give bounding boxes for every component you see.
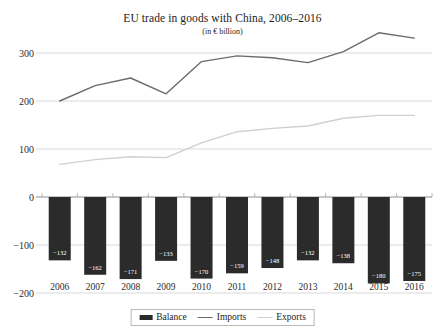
legend-label-balance: Balance [156, 312, 187, 322]
x-axis-tick-label: 2016 [394, 282, 434, 292]
y-axis-tick-label: 200 [0, 96, 34, 107]
y-axis-tick-label: 300 [0, 48, 34, 59]
legend-item-imports[interactable]: Imports [198, 312, 247, 322]
bar-value-label: −175 [401, 270, 427, 277]
legend-swatch-imports-icon [198, 317, 213, 318]
x-axis-tick-label: 2014 [323, 282, 363, 292]
bar-value-label: −171 [118, 268, 144, 275]
bar-value-label: −170 [189, 268, 215, 275]
legend-label-exports: Exports [276, 312, 306, 322]
legend-swatch-balance-icon [139, 315, 152, 320]
legend-swatch-exports-icon [257, 317, 272, 318]
y-axis-tick-label: −200 [0, 288, 34, 299]
bar-value-label: −148 [259, 257, 285, 264]
x-axis-tick-label: 2012 [252, 282, 292, 292]
chart-legend: Balance Imports Exports [130, 309, 315, 326]
x-axis-tick-label: 2008 [111, 282, 151, 292]
x-axis-tick-label: 2013 [288, 282, 328, 292]
y-axis-tick-label: −100 [0, 240, 34, 251]
bar-value-label: −132 [47, 249, 73, 256]
bar-value-label: −132 [295, 249, 321, 256]
bar-value-label: −133 [153, 250, 179, 257]
x-axis-tick-label: 2007 [75, 282, 115, 292]
legend-label-imports: Imports [217, 312, 247, 322]
legend-item-exports[interactable]: Exports [257, 312, 306, 322]
x-axis-tick-label: 2009 [146, 282, 186, 292]
bar-value-label: −159 [224, 262, 250, 269]
bar-value-label: −138 [330, 252, 356, 259]
y-axis-tick-label: 0 [0, 192, 34, 203]
bar-value-label: −162 [82, 264, 108, 271]
y-axis-tick-label: 100 [0, 144, 34, 155]
x-axis-tick-label: 2011 [217, 282, 257, 292]
x-axis-tick-label: 2015 [359, 282, 399, 292]
bar-value-label: −180 [366, 272, 392, 279]
legend-item-balance[interactable]: Balance [139, 312, 187, 322]
x-axis-tick-label: 2010 [182, 282, 222, 292]
chart-container: EU trade in goods with China, 2006–2016 … [0, 0, 445, 333]
x-axis-tick-label: 2006 [40, 282, 80, 292]
